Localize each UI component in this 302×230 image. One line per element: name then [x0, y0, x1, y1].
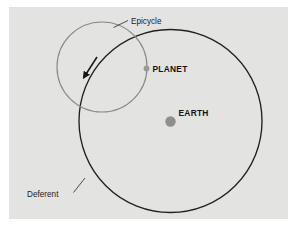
deferent-label: Deferent [27, 190, 59, 199]
epicycle-circle [57, 22, 147, 112]
figure-root: Epicycle Deferent PLANET EARTH [0, 0, 302, 230]
earth-dot-marker [165, 116, 175, 126]
planet-label: PLANET [153, 64, 189, 74]
earth-label: EARTH [179, 108, 209, 118]
planet-dot-marker [144, 66, 150, 72]
deferent-leader-line [74, 178, 86, 193]
epicycle-label: Epicycle [131, 17, 162, 26]
motion-direction-arrow-icon [84, 57, 98, 78]
epicycle-deferent-diagram: Epicycle Deferent PLANET EARTH [0, 0, 302, 230]
